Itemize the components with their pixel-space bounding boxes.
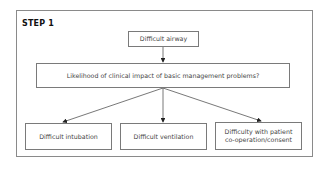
node-label: Difficult intubation: [39, 133, 97, 141]
node-label-line2: co-operation/consent: [225, 136, 292, 144]
node-label: Difficult airway: [140, 35, 187, 43]
node-difficulty-cooperation: Difficulty with patient co-operation/con…: [215, 122, 302, 150]
node-difficult-ventilation: Difficult ventilation: [120, 123, 207, 150]
node-label: Difficult ventilation: [134, 133, 194, 141]
node-difficult-airway: Difficult airway: [128, 31, 199, 47]
node-difficult-intubation: Difficult intubation: [25, 123, 112, 150]
node-label-line1: Difficulty with patient: [225, 128, 293, 136]
node-label: Likelihood of clinical impact of basic m…: [67, 72, 260, 80]
node-likelihood-question: Likelihood of clinical impact of basic m…: [36, 63, 290, 88]
